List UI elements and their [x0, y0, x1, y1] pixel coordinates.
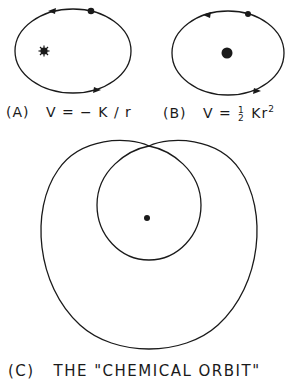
panel-a-orbit [15, 8, 131, 93]
label-panel-c: (C) THE "CHEMICAL ORBIT" [8, 362, 261, 380]
outer-loop-c [41, 140, 257, 349]
panel-a-tag: (A) [6, 104, 30, 120]
direction-arrow-b-top [203, 12, 211, 18]
panel-b-tag: (B) [163, 105, 187, 121]
force-center-dot-c [144, 215, 150, 221]
inner-loop-c [97, 146, 201, 260]
panel-c-caption: THE "CHEMICAL ORBIT" [54, 362, 261, 380]
panel-b-formula-prefix: V = [203, 105, 232, 121]
fraction-denominator: 2 [238, 114, 245, 122]
orbit-ellipse-a [15, 9, 131, 93]
panel-b-orbit [172, 11, 284, 95]
panel-c-tag: (C) [8, 362, 35, 380]
particle-a [88, 8, 95, 15]
panel-b-formula-suffix: Kr [251, 105, 268, 121]
diagram-canvas [0, 0, 293, 387]
panel-c-orbit [41, 140, 257, 349]
panel-b-fraction: 1 2 [238, 106, 245, 122]
particle-b [245, 11, 251, 17]
panel-b-exponent: 2 [268, 104, 275, 114]
force-center-dot-b [222, 48, 233, 59]
label-panel-b: (B) V = 1 2 Kr2 [163, 104, 275, 122]
panel-a-formula: V = − K / r [46, 104, 132, 120]
label-panel-a: (A) V = − K / r [6, 104, 132, 120]
force-center-star-a [39, 46, 50, 57]
